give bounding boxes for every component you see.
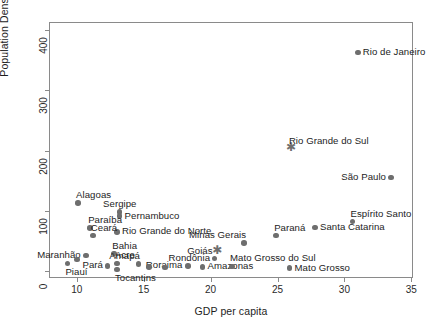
data-point-roraima (185, 263, 191, 269)
x-tick-line (344, 277, 345, 282)
data-point (146, 264, 152, 270)
y-axis-title: Population Density (0, 0, 10, 92)
x-tick-line (278, 277, 279, 282)
data-point-paraná (273, 233, 279, 239)
point-label-minas-gerais: Minas Gerais (189, 229, 246, 240)
y-tick-label: 200 (38, 151, 49, 181)
point-label-santa-catarina: Santa Catarina (320, 221, 385, 232)
data-point (74, 257, 80, 263)
x-tick-label: 15 (129, 284, 159, 295)
point-label-rio-grande-do-sul: Rio Grande do Sul (289, 135, 369, 146)
x-tick-label: 35 (396, 284, 426, 295)
scatter-plot-figure: Population Density GDP per capita 010020… (0, 0, 430, 327)
data-point-amapá (136, 261, 142, 267)
point-label-rio-de-janeiro: Rio de Janeiro (363, 46, 426, 57)
data-point-ceará (90, 233, 96, 239)
point-label-mato-grosso: Mato Grosso (295, 262, 350, 273)
x-tick-line (411, 277, 412, 282)
y-tick-label: 0 (38, 272, 49, 302)
point-label-pernambuco: Pernambuco (125, 210, 180, 221)
x-tick-line (211, 277, 212, 282)
data-point-minas-gerais (241, 240, 247, 246)
x-tick-line (77, 277, 78, 282)
point-label-piauí: Piauí (65, 266, 87, 277)
data-point-alagoas (75, 200, 81, 206)
data-point (162, 265, 168, 271)
data-point-santa-catarina (312, 225, 318, 231)
point-label-tocantins: Tocantins (115, 272, 156, 283)
data-point-são-paulo (388, 175, 394, 181)
point-label-sergipe: Sergipe (103, 198, 136, 209)
point-label-paraná: Paraná (274, 222, 305, 233)
point-label-acre: Acre (115, 249, 135, 260)
data-point-piauí (65, 261, 71, 267)
point-label-ceará: Ceará (91, 222, 117, 233)
y-tick-label: 400 (38, 30, 49, 60)
data-point-mato-grosso-do-sul (229, 264, 235, 270)
data-point-rio-de-janeiro (355, 50, 361, 56)
point-label-são-paulo: São Paulo (341, 171, 386, 182)
x-tick-label: 30 (329, 284, 359, 295)
x-tick-label: 25 (263, 284, 293, 295)
x-tick-label: 20 (196, 284, 226, 295)
data-point-pará (105, 263, 111, 269)
data-point-amazonas (200, 264, 206, 270)
x-axis-title: GDP per capita (49, 305, 413, 317)
y-tick-label: 300 (38, 91, 49, 121)
data-point-acre (114, 261, 120, 267)
point-label-espírito-santo: Espírito Santo (350, 208, 411, 219)
y-tick-label: 100 (38, 211, 49, 241)
plot-area: 0100200300400 101520253035 Rio de Janeir… (49, 22, 413, 278)
data-point-mato-grosso (287, 265, 293, 271)
data-point-maranhão (83, 253, 89, 259)
x-tick-label: 10 (62, 284, 92, 295)
data-point-tocantins (114, 267, 120, 273)
